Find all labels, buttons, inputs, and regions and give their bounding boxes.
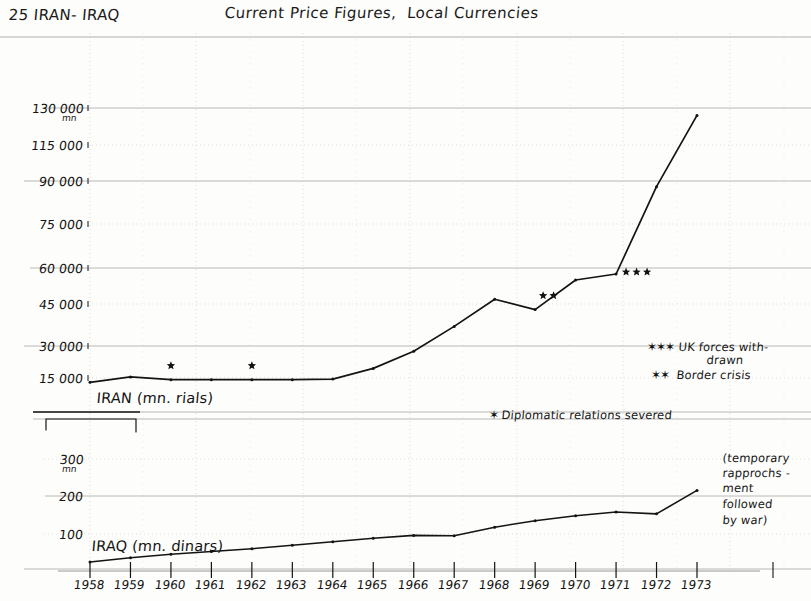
- ytick-iraq-unit-0: mn: [0, 464, 77, 474]
- single-star-icon: ✶: [489, 408, 498, 422]
- grid-solid-lines: [0, 37, 811, 569]
- war-note-line2: rapprochs -: [722, 466, 791, 480]
- double-star-icon: ✶✶: [651, 368, 669, 382]
- xtick-1963: 1963: [275, 578, 307, 592]
- ytick-iran-4: 60 000: [0, 261, 84, 276]
- xtick-1973: 1973: [680, 578, 712, 592]
- war-note-line1: (temporary: [722, 451, 790, 465]
- xtick-1965: 1965: [356, 578, 388, 592]
- legend-uk-marker: ✶✶✶: [647, 341, 674, 354]
- ytick-iran-6: 30 000: [0, 339, 84, 354]
- xtick-1969: 1969: [518, 578, 550, 592]
- ytick-iran-3: 75 000: [0, 217, 84, 232]
- series-label-iraq: IRAQ (mn. dinars): [91, 538, 224, 554]
- chart-page: 25 IRAN- IRAQ Current Price Figures, Loc…: [0, 0, 811, 601]
- ytick-iran-label-7: 15 000: [38, 371, 84, 386]
- xtick-1961: 1961: [194, 578, 226, 592]
- ytick-iran-1: 115 000: [0, 138, 84, 153]
- xtick-1967: 1967: [437, 578, 469, 592]
- war-note-line5: by war): [722, 513, 768, 527]
- xtick-1966: 1966: [397, 578, 429, 592]
- ytick-iraq-2: 100: [0, 527, 84, 542]
- triple-star-icon: ✶✶✶: [647, 340, 674, 354]
- ytick-iran-label-2: 90 000: [38, 174, 84, 189]
- xtick-1959: 1959: [113, 578, 145, 592]
- legend-border-label: Border crisis: [676, 369, 751, 382]
- war-note-line4: followed: [722, 497, 773, 511]
- xtick-1964: 1964: [316, 578, 348, 592]
- xtick-1972: 1972: [640, 578, 672, 592]
- xtick-1958: 1958: [73, 578, 105, 592]
- ytick-iran-label-3: 75 000: [38, 217, 84, 232]
- diplomatic-marker: ✶: [489, 409, 498, 422]
- ytick-iran-label-6: 30 000: [38, 339, 84, 354]
- xtick-1970: 1970: [559, 578, 591, 592]
- ytick-iraq-label-1: 200: [58, 489, 84, 504]
- series-label-iran: IRAN (mn. rials): [96, 390, 214, 406]
- legend-border-marker: ✶✶: [651, 369, 669, 382]
- chart-plot-area: [0, 0, 811, 601]
- ytick-iran-0: 130 000mn: [0, 101, 85, 123]
- xtick-1962: 1962: [235, 578, 267, 592]
- ytick-iran-label-4: 60 000: [38, 261, 84, 276]
- ytick-iraq-1: 200: [0, 489, 84, 504]
- xtick-1971: 1971: [599, 578, 631, 592]
- diplomatic-annotation: Diplomatic relations severed: [501, 409, 673, 422]
- ytick-iran-2: 90 000: [0, 174, 84, 189]
- ytick-iraq-label-2: 100: [58, 527, 84, 542]
- ytick-iraq-0: 300mn: [0, 452, 85, 474]
- ytick-iran-label-5: 45 000: [38, 297, 84, 312]
- ytick-iran-5: 45 000: [0, 297, 84, 312]
- ytick-iran-label-1: 115 000: [30, 138, 84, 153]
- iran-series-line: [89, 114, 699, 384]
- war-note-line3: ment: [722, 481, 754, 495]
- xtick-1968: 1968: [478, 578, 510, 592]
- legend-uk-label-line2: drawn: [706, 354, 744, 367]
- xtick-1960: 1960: [154, 578, 186, 592]
- ytick-iran-7: 15 000: [0, 371, 84, 386]
